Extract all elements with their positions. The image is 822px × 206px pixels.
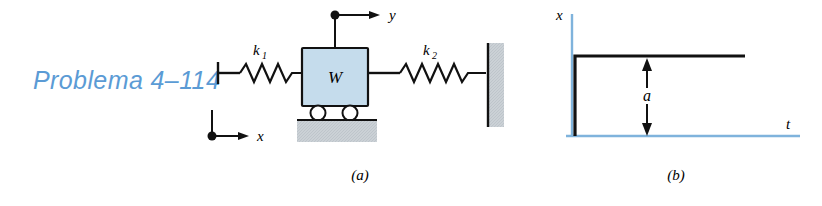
panel-a-caption: (a): [351, 167, 369, 184]
figure-canvas: y x k 1 W: [0, 0, 822, 206]
spring-k1-label: k 1: [253, 42, 267, 61]
left-anchor: [218, 62, 240, 84]
spring-k2-subscript: 2: [432, 50, 437, 61]
panel-b-caption: (b): [667, 167, 685, 184]
wheel-left: [311, 106, 326, 121]
axis-y-label: y: [387, 7, 396, 23]
plot-step-curve: [575, 56, 745, 136]
mass-block-label: W: [328, 68, 344, 87]
spring-k1-label-text: k: [253, 42, 260, 58]
plot-x-axis-label: t: [786, 116, 791, 132]
spring-k1: [240, 64, 302, 82]
spring-k2: [368, 64, 486, 82]
spring-k2-label-text: k: [423, 42, 430, 58]
axis-x-indicator: [208, 110, 250, 141]
axis-x-label: x: [256, 128, 264, 144]
wall: [487, 43, 504, 127]
wheel-group: [311, 106, 358, 121]
plot-y-axis-label: x: [555, 7, 563, 23]
wheel-right: [343, 106, 358, 121]
ground: [297, 120, 377, 142]
figure-root: Problema 4–114 y x k 1: [0, 0, 822, 206]
spring-k1-subscript: 1: [262, 50, 267, 61]
amplitude-label: a: [643, 87, 651, 104]
spring-k2-label: k 2: [423, 42, 437, 61]
